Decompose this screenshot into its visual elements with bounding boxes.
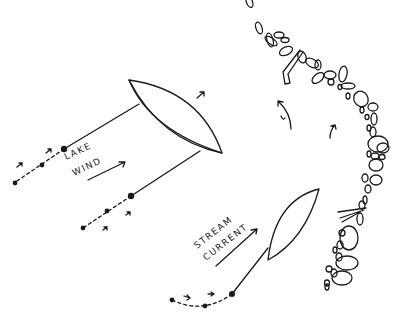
flow-arrow-icon [330,125,336,138]
lake-label: LAKE [63,141,93,162]
rocky-shoreline [245,0,389,290]
lower-bead-path [81,193,135,231]
stream-tether [232,248,268,294]
kite-motion-arrow-icon [197,92,204,98]
stream-kite [268,189,319,260]
eddy-arrow-icon [278,101,291,129]
lower-tether [131,151,200,196]
upper-bead-path [13,146,68,186]
upper-tether [64,104,139,149]
lake-kite [129,80,222,153]
stream-bead-path [170,291,235,308]
eddy-mark-icon [281,116,285,119]
diagram-canvas: LAKE WIND STREAM CURRENT [0,0,405,323]
